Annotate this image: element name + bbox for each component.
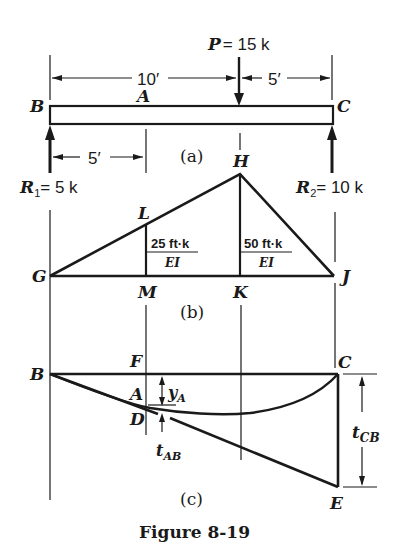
point-L-label: L [137, 203, 150, 223]
reaction-1-arrow-up-icon [45, 125, 55, 140]
ordinate-LM-value: 25 ft·k [151, 236, 190, 251]
point-E-label: E [329, 493, 344, 513]
point-H-label: H [232, 151, 250, 171]
reaction-2-label: R2= 10 k [295, 177, 364, 199]
point-A-curve-label: A [128, 384, 143, 404]
t-CB-label: tCB [352, 422, 380, 445]
point-C-curve-label: C [338, 352, 352, 372]
figure-caption: Figure 8-19 [139, 522, 250, 542]
elastic-curve-c: yA tAB tCB B F A D C E (c) [29, 351, 380, 513]
arrowhead-icon [242, 75, 252, 81]
part-a-label: (a) [180, 146, 203, 166]
t-AB-label: tAB [156, 441, 181, 463]
arrowhead-icon [159, 376, 165, 385]
beam-deflection-figure: 10′ 5′ P= 15 k B A C 5′ (a) [0, 0, 399, 553]
point-F-label: F [129, 351, 144, 371]
arrowhead-icon [320, 75, 330, 81]
arrowhead-icon [359, 376, 365, 386]
arrowhead-icon [52, 75, 62, 81]
part-c-label: (c) [180, 489, 203, 509]
dim-5ft-label: 5′ [268, 70, 281, 89]
beam-body [50, 106, 333, 124]
moment-diagram-b: H 25 ft·k EI 50 ft·k EI L G M K J (b) [32, 151, 351, 500]
point-J-label: J [339, 266, 351, 286]
point-G-label: G [32, 266, 47, 286]
point-D-label: D [129, 409, 145, 429]
moment-triangle-outline [50, 174, 334, 276]
ordinate-HK-value: 50 ft·k [244, 236, 283, 251]
reaction-1-label: R1= 5 k [19, 177, 78, 199]
load-label: P= 15 k [207, 34, 270, 54]
arrowhead-icon [226, 75, 236, 81]
dim-5ft-A-label: 5′ [88, 149, 101, 168]
point-M-label: M [137, 282, 158, 302]
point-B-curve-label: B [29, 364, 44, 384]
beam-diagram-a: 10′ 5′ P= 15 k B A C 5′ (a) [19, 34, 364, 199]
ordinate-HK-denominator: EI [258, 256, 274, 270]
point-B-label: B [29, 96, 44, 116]
reaction-2-arrow-up-icon [327, 125, 337, 140]
part-b-label: (b) [180, 302, 204, 322]
point-C-label: C [337, 96, 351, 116]
ordinate-LM-denominator: EI [164, 256, 180, 270]
arrowhead-icon [53, 154, 63, 160]
elastic-curve [50, 374, 338, 414]
load-arrow-down-icon [234, 93, 244, 106]
arrowhead-icon [133, 154, 143, 160]
point-K-label: K [232, 282, 249, 302]
y-A-label: yA [167, 383, 186, 405]
arrowhead-icon [359, 476, 365, 486]
point-A-label: A [135, 86, 150, 106]
arrowhead-icon [159, 413, 165, 422]
tangent-line-BE-lower [170, 418, 338, 487]
